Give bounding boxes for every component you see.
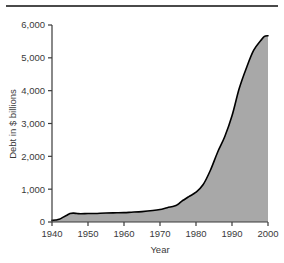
chart-figure: 01,0002,0003,0004,0005,0006,000 19401950… <box>0 0 284 263</box>
area-fill <box>52 36 268 222</box>
y-tick-label: 3,000 <box>21 118 45 129</box>
x-axis-tick-labels: 1940195019601970198019902000 <box>41 228 278 239</box>
y-tick-label: 1,000 <box>21 184 45 195</box>
y-tick-label: 4,000 <box>21 85 45 96</box>
y-tick-label: 0 <box>40 216 45 227</box>
x-tick-label: 1980 <box>185 228 206 239</box>
y-tick-label: 2,000 <box>21 151 45 162</box>
x-tick-label: 1940 <box>41 228 62 239</box>
y-axis-tick-labels: 01,0002,0003,0004,0005,0006,000 <box>21 19 45 227</box>
x-axis-title: Year <box>150 244 169 255</box>
x-axis-ticks <box>52 222 268 226</box>
y-tick-label: 6,000 <box>21 19 45 30</box>
top-divider-rule <box>6 5 278 7</box>
x-tick-label: 1970 <box>149 228 170 239</box>
debt-area-chart: 01,0002,0003,0004,0005,0006,000 19401950… <box>0 0 284 263</box>
x-tick-label: 1960 <box>113 228 134 239</box>
y-axis-title: Debt in $ billions <box>7 89 18 159</box>
area-series-national-debt <box>52 36 268 222</box>
x-tick-label: 1990 <box>221 228 242 239</box>
y-tick-label: 5,000 <box>21 52 45 63</box>
x-tick-label: 1950 <box>77 228 98 239</box>
x-tick-label: 2000 <box>257 228 278 239</box>
